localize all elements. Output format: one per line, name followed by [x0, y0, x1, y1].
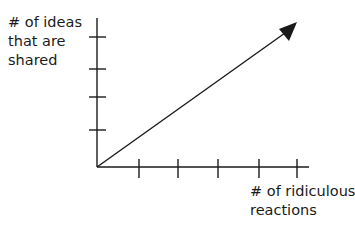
x-axis-ticks — [139, 159, 297, 178]
arrowhead-icon — [279, 22, 297, 41]
x-axis-label-line-1: # of ridiculous — [250, 182, 355, 201]
trend-line — [97, 33, 285, 167]
x-axis-label-line-2: reactions — [250, 201, 355, 220]
x-axis-label: # of ridiculous reactions — [250, 182, 355, 220]
